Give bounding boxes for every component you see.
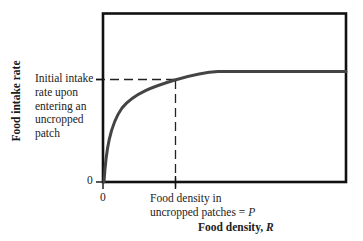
x-axis-label-text: Food density,	[198, 221, 266, 233]
x-annotation-line-1: Food density in	[150, 192, 255, 206]
y-axis-label-text: Food intake rate	[10, 60, 22, 141]
y-annotation-line: uncropped	[35, 113, 93, 127]
plot-frame	[103, 14, 346, 183]
x-annotation-line-2: uncropped patches = P	[150, 206, 255, 220]
y-annotation-line: entering an	[35, 100, 93, 114]
intake-curve	[104, 72, 346, 183]
y-intake-annotation: Initial intake rate upon entering an unc…	[35, 72, 93, 141]
y-annotation-line: rate upon	[35, 86, 93, 100]
x-axis-label-var: R	[266, 221, 274, 233]
y-zero-label: 0	[87, 174, 93, 188]
x-p-annotation: Food density in uncropped patches = P	[150, 192, 255, 219]
x-annotation-prefix: uncropped patches =	[150, 206, 248, 218]
x-axis-label: Food density, R	[198, 221, 274, 235]
x-zero-label: 0	[100, 191, 106, 205]
y-annotation-line: patch	[35, 127, 93, 141]
y-annotation-line: Initial intake	[35, 72, 93, 86]
x-annotation-var: P	[248, 206, 255, 218]
